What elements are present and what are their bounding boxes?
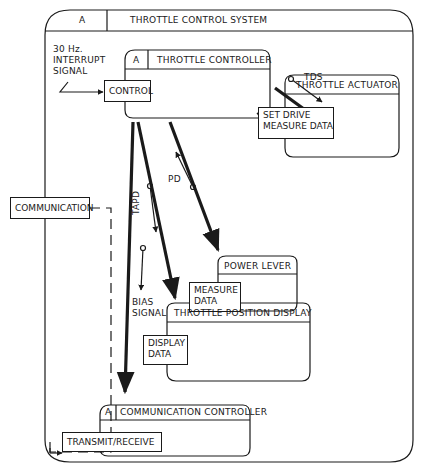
set-drive-port[interactable]: SET DRIVE MEASURE DATA: [258, 107, 334, 139]
system-title: THROTTLE CONTROL SYSTEM: [130, 15, 267, 26]
set-drive-line-2: MEASURE DATA: [263, 121, 329, 132]
interrupt-line-2: INTERRUPT: [53, 55, 105, 66]
comm-controller-tag: A: [105, 407, 111, 418]
comm-controller-title: COMMUNICATION CONTROLLER: [120, 407, 267, 418]
interrupt-line-3: SIGNAL: [53, 66, 87, 77]
power-lever-title: POWER LEVER: [224, 261, 291, 272]
transmit-receive-port[interactable]: TRANSMIT/RECEIVE: [62, 432, 162, 452]
pd-label: PD: [168, 174, 181, 185]
display-line-2: DATA: [148, 349, 183, 360]
bias-line-1: BIAS: [132, 297, 154, 308]
display-data-port[interactable]: DISPLAY DATA: [143, 335, 188, 365]
tapd-label: TAPD: [131, 191, 142, 215]
set-drive-line-1: SET DRIVE: [263, 110, 329, 121]
tpd-title: THROTTLE POSITION DISPLAY: [174, 308, 312, 319]
system-tag: A: [79, 15, 85, 26]
communication-box[interactable]: COMMUNICATION: [10, 197, 90, 219]
measure-line-1: MEASURE: [194, 285, 236, 296]
throttle-actuator-title: THROTTLE ACTUATOR: [296, 80, 398, 91]
system-frame: [45, 10, 413, 462]
measure-line-2: DATA: [194, 296, 236, 307]
display-line-1: DISPLAY: [148, 338, 183, 349]
throttle-controller-tag: A: [133, 55, 139, 66]
bias-line-2: SIGNAL: [132, 308, 166, 319]
interrupt-line-1: 30 Hz.: [53, 44, 83, 55]
throttle-controller-title: THROTTLE CONTROLLER: [157, 55, 272, 66]
control-port[interactable]: CONTROL: [104, 80, 151, 102]
